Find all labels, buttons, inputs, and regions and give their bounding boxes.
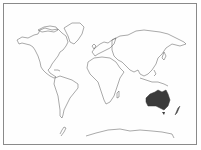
antarctica (86, 129, 174, 138)
south-america (54, 76, 78, 118)
antarctic-peninsula (60, 127, 66, 136)
greenland (64, 23, 84, 44)
asia (112, 30, 186, 76)
africa (87, 57, 124, 104)
caribbean (54, 70, 60, 71)
australia-highlighted (146, 90, 170, 110)
world-map (0, 0, 201, 150)
new-zealand (175, 106, 180, 115)
uk (92, 44, 96, 49)
north-america (17, 28, 68, 78)
madagascar (117, 91, 119, 98)
philippines (154, 70, 156, 76)
tasmania (162, 112, 165, 115)
indonesia (140, 78, 168, 86)
